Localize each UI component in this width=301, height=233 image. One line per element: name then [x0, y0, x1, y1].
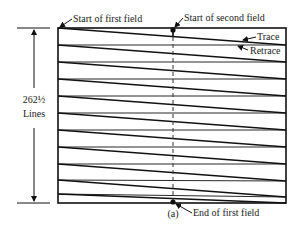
start-second-field-pointer	[175, 18, 183, 27]
trace-pointer	[243, 37, 256, 40]
start-first-field-label: Start of first field	[73, 13, 142, 24]
trace-line	[58, 62, 286, 79]
trace-label: Trace	[257, 31, 280, 42]
interlace-raster-diagram: 262½ Lines Start of first field Start of…	[0, 0, 301, 233]
trace-line	[58, 113, 286, 130]
trace-line	[58, 164, 286, 181]
trace-line	[58, 130, 286, 147]
figure-caption: (a)	[167, 208, 178, 220]
retrace-label: Retrace	[250, 45, 281, 56]
end-first-field-label: End of first field	[193, 207, 259, 218]
trace-line	[58, 79, 286, 96]
end-first-field-dot	[170, 199, 175, 204]
start-first-field-pointer	[60, 19, 72, 27]
line-count-unit: Lines	[23, 108, 45, 119]
start-second-field-label: Start of second field	[184, 12, 265, 23]
retrace-pointer	[238, 46, 248, 50]
retrace-line	[58, 180, 286, 181]
line-count-value: 262½	[23, 94, 46, 105]
trace-line	[58, 96, 286, 113]
trace-line	[58, 147, 286, 164]
